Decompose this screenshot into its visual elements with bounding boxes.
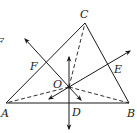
label-f: F: [29, 60, 38, 73]
side-bc: [85, 23, 129, 103]
bisector-ca-arrow-down: [69, 87, 81, 100]
label-d: D: [71, 106, 81, 119]
label-b: B: [126, 107, 135, 120]
dashed-ob: [69, 87, 129, 103]
label-o: O: [53, 78, 62, 91]
label-a: A: [0, 107, 9, 120]
label-e: E: [113, 63, 122, 76]
point-o: [67, 85, 70, 88]
label-c: C: [80, 8, 89, 21]
triangle-diagram: C A B O D E F F: [0, 0, 137, 133]
label-edge-fragment: F: [0, 36, 4, 49]
dashed-oc: [69, 23, 85, 87]
